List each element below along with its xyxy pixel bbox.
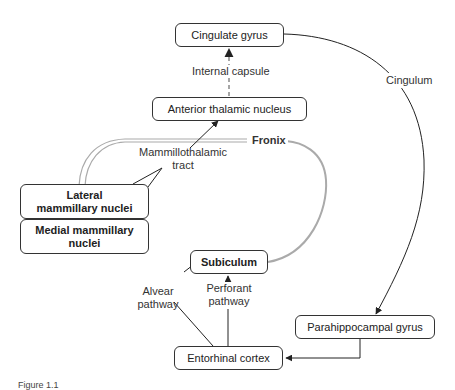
label-perforant-line2: pathway xyxy=(203,295,255,308)
node-entorhinal-cortex: Entorhinal cortex xyxy=(174,346,283,370)
label-mammillothalamic-tract: Mammillothalamic tract xyxy=(135,146,231,172)
node-medial-mammillary-nuclei: Medial mammillary nuclei xyxy=(20,219,149,254)
label-mammillothalamic-line1: Mammillothalamic xyxy=(135,146,231,159)
label-alvear-line2: pathway xyxy=(134,298,182,311)
mammillothalamic-arrow xyxy=(190,121,218,148)
label-perforant-pathway: Perforant pathway xyxy=(203,282,255,308)
node-entorhinal-cortex-label: Entorhinal cortex xyxy=(187,352,270,365)
node-subiculum: Subiculum xyxy=(190,250,268,274)
parahippocampal-to-entorhinal-arrow xyxy=(286,339,360,358)
figure-caption: Figure 1.1 xyxy=(18,380,59,390)
node-anterior-thalamic-nucleus-label: Anterior thalamic nucleus xyxy=(168,103,292,116)
node-cingulate-gyrus-label: Cingulate gyrus xyxy=(191,29,267,42)
label-cingulum: Cingulum xyxy=(384,73,434,88)
label-internal-capsule: Internal capsule xyxy=(190,65,272,78)
label-fornix: Fronix xyxy=(250,134,288,147)
node-parahippocampal-gyrus-label: Parahippocampal gyrus xyxy=(307,321,423,334)
label-perforant-line1: Perforant xyxy=(203,282,255,295)
label-alvear-pathway: Alvear pathway xyxy=(134,285,182,311)
node-cingulate-gyrus: Cingulate gyrus xyxy=(175,23,284,47)
node-lateral-mammillary-nuclei-label: Lateral mammillary nuclei xyxy=(35,189,135,215)
node-parahippocampal-gyrus: Parahippocampal gyrus xyxy=(295,315,435,339)
label-mammillothalamic-line2: tract xyxy=(135,159,231,172)
node-medial-mammillary-nuclei-label: Medial mammillary nuclei xyxy=(35,224,135,250)
node-lateral-mammillary-nuclei: Lateral mammillary nuclei xyxy=(20,184,149,219)
node-subiculum-label: Subiculum xyxy=(201,256,257,269)
node-anterior-thalamic-nucleus: Anterior thalamic nucleus xyxy=(152,97,307,121)
label-alvear-line1: Alvear xyxy=(134,285,182,298)
